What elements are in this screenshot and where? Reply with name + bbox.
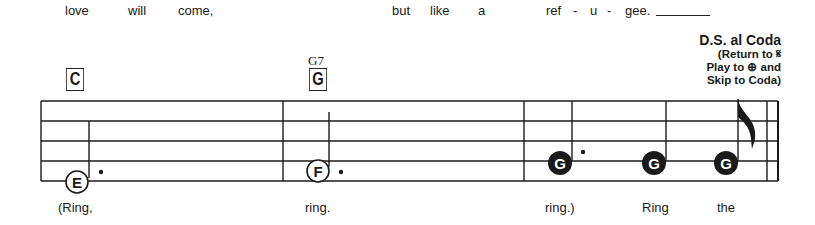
lyric-word: the xyxy=(717,200,735,215)
music-staff: E F G G G xyxy=(0,0,815,225)
staff-lines xyxy=(41,101,778,181)
lyric-word: (Ring, xyxy=(58,200,93,215)
note-g-3: G xyxy=(714,99,755,175)
lyric-word: Ring xyxy=(642,200,669,215)
note-e: E xyxy=(66,121,103,193)
lyric-word: ring.) xyxy=(545,200,575,215)
note-g-1: G xyxy=(548,101,585,175)
svg-text:G: G xyxy=(720,155,732,172)
lyric-word: ring. xyxy=(305,200,330,215)
svg-text:G: G xyxy=(648,155,660,172)
svg-text:F: F xyxy=(313,163,322,180)
svg-text:G: G xyxy=(554,155,566,172)
note-f: F xyxy=(307,112,343,182)
note-g-2: G xyxy=(642,101,666,175)
svg-text:E: E xyxy=(72,174,82,191)
